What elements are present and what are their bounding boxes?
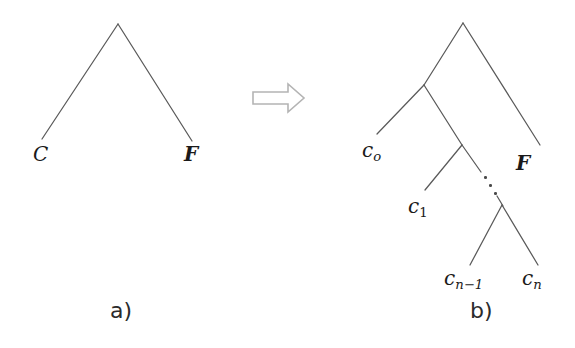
label-leaf-c1: c1 <box>408 196 428 219</box>
ellipsis-dot <box>489 184 492 187</box>
label-leaf-c1-base: c <box>408 194 419 218</box>
double-right-arrow-icon <box>253 84 304 112</box>
edge-n1-to-c0 <box>377 85 424 134</box>
edge-n3-to-cn <box>502 205 538 265</box>
label-leaf-F-a: F <box>184 144 198 164</box>
edge-root-to-F <box>118 24 192 141</box>
ellipsis-dot <box>494 192 497 195</box>
label-leaf-c0-base: c <box>362 138 373 162</box>
label-leaf-c0: co <box>362 140 381 163</box>
caption-panel-a: a) <box>110 300 132 322</box>
edge-root-to-F <box>463 23 540 145</box>
label-leaf-cn-minus-1-base: c <box>444 266 455 290</box>
label-leaf-cn-subscript: n <box>533 277 542 292</box>
caption-panel-b: b) <box>470 300 493 322</box>
edge-n1-to-n2 <box>424 85 462 145</box>
label-leaf-cn: cn <box>522 268 542 291</box>
edge-n3-to-cn-minus-1 <box>470 205 502 265</box>
label-leaf-C: C <box>33 144 48 164</box>
edge-n2-to-ellipsis <box>462 145 481 172</box>
figure-canvas: C F a) co c1 cn−1 cn F b) <box>0 0 575 348</box>
label-leaf-c1-subscript: 1 <box>419 205 427 220</box>
edge-root-to-C <box>42 24 118 139</box>
panel-a-tree <box>42 24 192 141</box>
label-leaf-cn-minus-1-subscript: n−1 <box>455 277 483 292</box>
tree-diagram-svg <box>0 0 575 348</box>
label-leaf-c0-subscript: o <box>373 149 381 164</box>
ellipsis-dot <box>484 176 487 179</box>
panel-b-tree <box>377 23 540 265</box>
label-leaf-F-b: F <box>516 153 530 173</box>
label-leaf-cn-minus-1: cn−1 <box>444 268 483 291</box>
edge-root-to-n1 <box>424 23 463 85</box>
label-leaf-cn-base: c <box>522 266 533 290</box>
edge-n2-to-c1 <box>425 145 462 190</box>
